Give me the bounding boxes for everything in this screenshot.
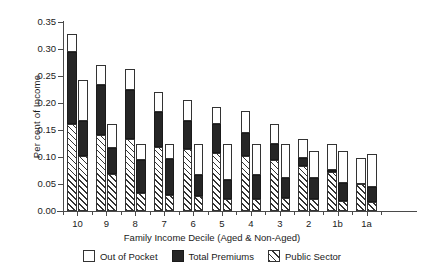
bar-1b-aged <box>327 22 337 211</box>
bar-10-non-aged <box>78 22 88 211</box>
y-axis-tick-label: 0.20 <box>20 98 56 108</box>
x-axis-tick-label-9: 9 <box>91 218 121 229</box>
bar-8-aged <box>125 22 135 211</box>
x-axis-tick-label-3: 3 <box>265 218 295 229</box>
bar-segment-out-of-pocket <box>165 144 175 160</box>
bar-segment-public-sector <box>67 124 77 211</box>
bar-segment-out-of-pocket <box>241 111 251 133</box>
x-axis-tick <box>338 211 339 216</box>
x-axis-tick-label-5: 5 <box>207 218 237 229</box>
legend-label: Total Premiums <box>189 251 254 262</box>
legend-swatch-icon <box>268 250 280 262</box>
bar-segment-out-of-pocket <box>281 144 291 178</box>
x-axis-tick-label-2: 2 <box>294 218 324 229</box>
x-axis-tick-label-10: 10 <box>62 218 92 229</box>
bar-segment-total-premiums <box>96 85 106 136</box>
bar-segment-public-sector <box>212 153 222 211</box>
bar-segment-total-premiums <box>298 158 308 166</box>
bar-9-aged <box>96 22 106 211</box>
bar-segment-out-of-pocket <box>309 151 319 178</box>
bar-segment-total-premiums <box>136 160 146 193</box>
bar-segment-total-premiums <box>241 133 251 156</box>
bar-8-non-aged <box>136 22 146 211</box>
y-axis-tick-label: 0.00 <box>20 206 56 216</box>
bar-segment-public-sector <box>298 166 308 211</box>
bar-5-non-aged <box>223 22 233 211</box>
x-axis-tick <box>193 211 194 216</box>
bar-segment-out-of-pocket <box>183 100 193 121</box>
bar-segment-out-of-pocket <box>252 144 262 176</box>
x-axis-tick <box>77 211 78 216</box>
x-axis-minor-tick <box>265 211 266 215</box>
x-axis-tick <box>106 211 107 216</box>
bar-segment-public-sector <box>367 202 377 211</box>
bar-segment-total-premiums <box>78 121 88 157</box>
bar-segment-public-sector <box>154 147 164 211</box>
chart-legend: Out of PocketTotal PremiumsPublic Sector <box>0 250 424 262</box>
bar-3-non-aged <box>281 22 291 211</box>
y-axis-title: Per cent of Income <box>31 32 42 202</box>
legend-label: Public Sector <box>285 251 341 262</box>
bar-segment-public-sector <box>107 174 117 211</box>
x-axis-minor-tick <box>236 211 237 215</box>
bar-7-aged <box>154 22 164 211</box>
bar-segment-total-premiums <box>67 52 77 124</box>
bar-segment-total-premiums <box>107 148 117 174</box>
bar-2-non-aged <box>309 22 319 211</box>
y-axis-tick-label: 0.25 <box>20 71 56 81</box>
x-axis-minor-tick <box>179 211 180 215</box>
bar-6-aged <box>183 22 193 211</box>
bar-segment-total-premiums <box>154 112 164 147</box>
y-axis-tick-label: 0.10 <box>20 152 56 162</box>
bar-1b-non-aged <box>338 22 348 211</box>
bar-segment-public-sector <box>194 196 204 211</box>
bar-segment-out-of-pocket <box>338 151 348 183</box>
x-axis-minor-tick <box>208 211 209 215</box>
bar-9-non-aged <box>107 22 117 211</box>
bar-4-aged <box>241 22 251 211</box>
chart-root: Per cent of Income 0.000.050.100.150.200… <box>0 0 424 276</box>
bar-segment-out-of-pocket <box>96 65 106 85</box>
bar-5-aged <box>212 22 222 211</box>
legend-item-public-sector: Public Sector <box>268 250 341 262</box>
bar-1a-non-aged <box>367 22 377 211</box>
x-axis-tick <box>367 211 368 216</box>
bar-2-aged <box>298 22 308 211</box>
bar-segment-total-premiums <box>212 124 222 154</box>
bar-segment-public-sector <box>356 184 366 211</box>
bar-segment-out-of-pocket <box>125 69 135 90</box>
bar-segment-out-of-pocket <box>78 80 88 121</box>
bar-segment-total-premiums <box>281 178 291 199</box>
x-axis-tick-label-6: 6 <box>178 218 208 229</box>
x-axis-tick <box>309 211 310 216</box>
x-axis-tick-label-4: 4 <box>236 218 266 229</box>
x-axis-minor-tick <box>121 211 122 215</box>
x-axis-tick-label-1b: 1b <box>323 218 353 229</box>
x-axis-tick <box>251 211 252 216</box>
bar-segment-total-premiums <box>194 175 204 197</box>
x-axis-minor-tick <box>294 211 295 215</box>
bar-segment-public-sector <box>96 135 106 211</box>
bar-segment-public-sector <box>281 198 291 211</box>
bar-segment-total-premiums <box>125 90 135 140</box>
bar-segment-out-of-pocket <box>367 154 377 186</box>
legend-item-total-premiums: Total Premiums <box>172 250 254 262</box>
bar-segment-out-of-pocket <box>154 92 164 112</box>
x-axis-tick-label-1a: 1a <box>352 218 382 229</box>
bar-segment-out-of-pocket <box>67 34 77 52</box>
y-axis-tick-label: 0.30 <box>20 44 56 54</box>
x-axis-tick <box>135 211 136 216</box>
x-axis-minor-tick <box>63 211 64 215</box>
bar-segment-total-premiums <box>309 178 319 199</box>
x-axis-minor-tick <box>92 211 93 215</box>
x-axis-tick-label-7: 7 <box>149 218 179 229</box>
bar-segment-out-of-pocket <box>212 107 222 124</box>
x-axis-minor-tick <box>150 211 151 215</box>
bar-segment-public-sector <box>183 149 193 211</box>
bar-segment-out-of-pocket <box>223 144 233 180</box>
bar-segment-total-premiums <box>270 144 280 160</box>
bar-segment-total-premiums <box>165 159 175 195</box>
x-axis-minor-tick <box>323 211 324 215</box>
y-axis-tick-label: 0.35 <box>20 17 56 27</box>
bar-segment-out-of-pocket <box>356 158 366 184</box>
